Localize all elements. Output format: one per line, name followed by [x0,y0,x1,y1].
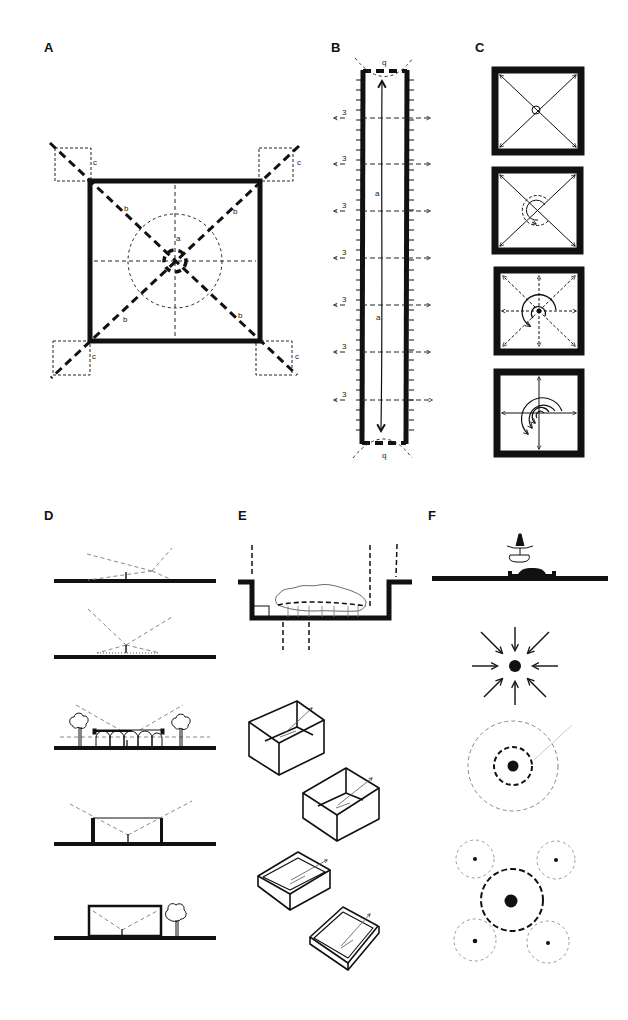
label-c: c [92,352,96,361]
panel-b-drawing: 3 3 3 3 3 3 3 q q a a [334,58,432,460]
label-q: q [382,451,386,460]
label-c: c [297,158,301,167]
label-a: a [376,313,381,322]
label-a: a [176,234,181,243]
label-c: c [93,158,97,167]
panel-e-drawing [238,544,412,970]
label-3: 3 [342,201,347,210]
panel-f-drawing [432,534,608,963]
panel-d-drawing [54,548,216,940]
label-b: b [238,311,243,320]
label-a: a [375,189,380,198]
label-b: b [124,204,129,213]
label-3: 3 [342,248,347,257]
diagram-canvas: a b b b b c c c c [0,0,628,1020]
label-3: 3 [342,342,347,351]
label-3: 3 [342,295,347,304]
label-3: 3 [342,154,347,163]
label-3: 3 [342,108,347,117]
label-c: c [295,352,299,361]
panel-a-drawing: a b b b b c c c c [50,143,301,378]
panel-c-drawing [495,70,581,454]
label-q: q [382,58,386,67]
label-b: b [233,207,238,216]
label-3: 3 [342,390,347,399]
label-b: b [123,315,128,324]
